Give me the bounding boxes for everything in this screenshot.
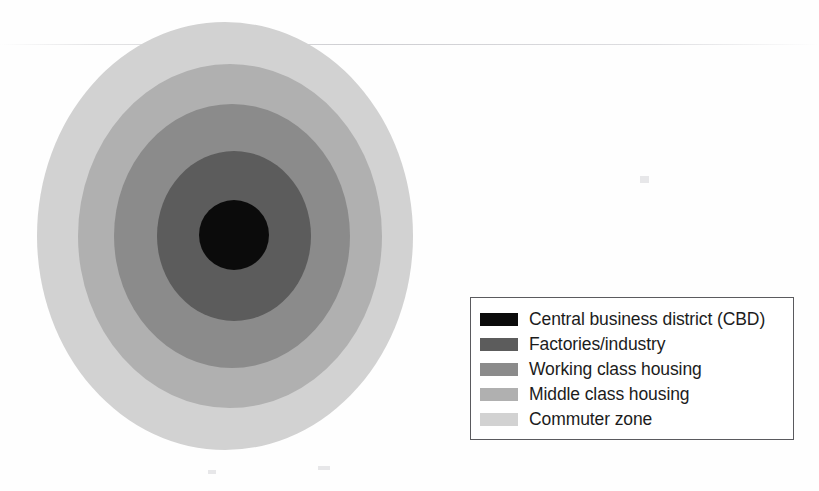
legend: Central business district (CBD) Factorie… (470, 297, 794, 440)
legend-item-label: Central business district (CBD) (529, 311, 765, 329)
legend-item: Working class housing (480, 357, 793, 382)
legend-item: Central business district (CBD) (480, 307, 793, 332)
swatch-factories (480, 338, 518, 351)
zone-central-business-district (199, 200, 269, 270)
swatch-commuter (480, 413, 518, 426)
legend-item: Factories/industry (480, 332, 793, 357)
scan-artifact-speck (640, 176, 649, 183)
legend-item-label: Working class housing (529, 361, 702, 379)
legend-item-label: Middle class housing (529, 386, 689, 404)
swatch-middle-class (480, 388, 518, 401)
legend-item: Middle class housing (480, 382, 793, 407)
swatch-cbd (480, 313, 518, 326)
legend-item-label: Factories/industry (529, 336, 665, 354)
swatch-working-class (480, 363, 518, 376)
concentric-zone-diagram (0, 0, 460, 491)
legend-item-label: Commuter zone (529, 411, 652, 429)
legend-item: Commuter zone (480, 407, 793, 432)
